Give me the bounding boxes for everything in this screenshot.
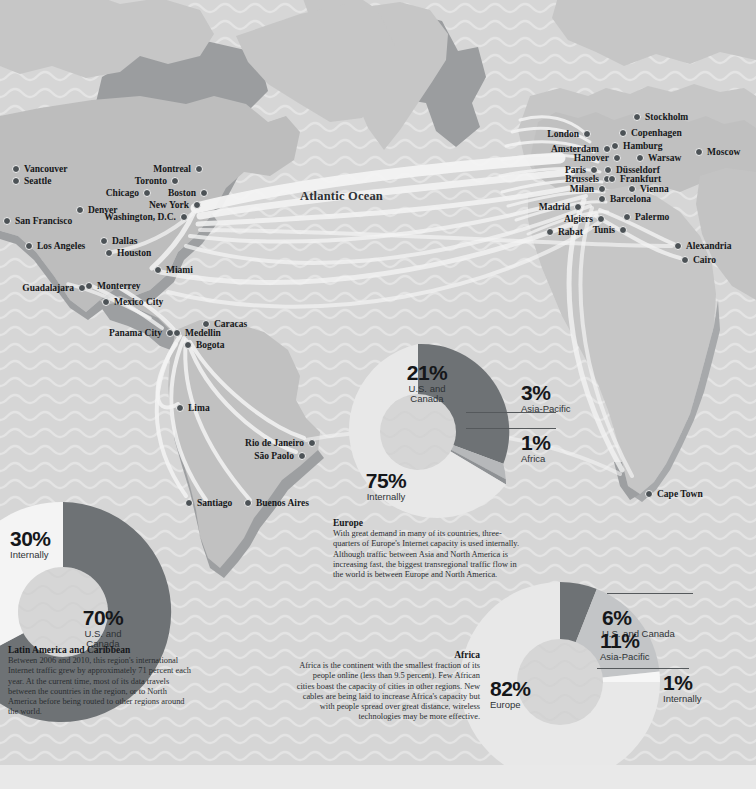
city-label: Frankfurt — [620, 174, 661, 184]
eu-label-africa: 1% Africa — [521, 432, 550, 464]
city-marker-moscow: Moscow — [695, 147, 740, 157]
city-marker-copenhagen: Copenhagen — [619, 128, 682, 138]
city-dot — [244, 499, 252, 507]
city-dot — [202, 320, 210, 328]
city-dot — [173, 329, 181, 337]
city-label: Milan — [570, 184, 594, 194]
city-marker-mexico-city: Mexico City — [102, 297, 163, 307]
city-marker-cairo: Cairo — [681, 255, 716, 265]
city-marker-algiers: Algiers — [0, 214, 605, 224]
city-marker-guadalajara: Guadalajara — [0, 283, 86, 293]
city-dot — [674, 242, 682, 250]
city-label: Rio de Janeiro — [245, 438, 304, 448]
city-label: Moscow — [707, 147, 740, 157]
city-label: London — [547, 129, 579, 139]
city-label: Miami — [166, 265, 193, 275]
city-dot — [102, 298, 110, 306]
city-label: Hamburg — [623, 141, 663, 151]
city-dot — [176, 404, 184, 412]
city-dot — [583, 130, 591, 138]
city-marker-santiago: Santiago — [185, 498, 232, 508]
city-dot — [184, 341, 192, 349]
city-marker-s-o-paolo: São Paolo — [0, 451, 306, 461]
city-marker-tunis: Tunis — [0, 225, 627, 235]
city-marker-rio-de-janeiro: Rio de Janeiro — [0, 438, 316, 448]
city-dot — [25, 242, 33, 250]
city-marker-hanover: Hanover — [0, 153, 621, 163]
africa-body: Africa is the continent with the smalles… — [294, 661, 480, 723]
city-dot — [598, 185, 606, 193]
city-label: São Paolo — [254, 451, 294, 461]
city-label: Rabat — [558, 227, 583, 237]
city-label: Lima — [188, 403, 210, 413]
city-dot — [598, 195, 606, 203]
city-dot — [308, 439, 316, 447]
city-dot — [628, 185, 636, 193]
city-marker-milan: Milan — [0, 184, 606, 194]
af-leader-line-us — [607, 593, 693, 594]
eu-leader-line-asia — [466, 412, 556, 413]
latin-america-text-block: Latin America and Caribbean Between 2006… — [8, 645, 194, 718]
city-label: Cape Town — [657, 489, 703, 499]
city-dot — [597, 215, 605, 223]
city-dot — [590, 166, 598, 174]
city-dot — [613, 154, 621, 162]
city-dot — [633, 113, 641, 121]
city-dot — [78, 284, 86, 292]
city-dot — [623, 213, 631, 221]
city-dot — [154, 266, 162, 274]
city-dot — [100, 237, 108, 245]
city-label: Santiago — [197, 498, 232, 508]
latin-america-body: Between 2006 and 2010, this region's int… — [8, 656, 194, 718]
city-label: Copenhagen — [631, 128, 682, 138]
city-dot — [574, 203, 582, 211]
city-marker-brussels: Brussels — [0, 174, 611, 184]
city-label: Tunis — [593, 225, 615, 235]
city-marker-miami: Miami — [154, 265, 193, 275]
city-marker-vienna: Vienna — [628, 184, 669, 194]
city-label: Hanover — [574, 153, 609, 163]
city-label: Stockholm — [645, 112, 688, 122]
city-label: Alexandria — [686, 241, 731, 251]
eu-leader-line-africa — [466, 428, 556, 429]
city-marker-dallas: Dallas — [100, 236, 137, 246]
city-dot — [298, 452, 306, 460]
city-marker-monterrey: Monterrey — [85, 281, 141, 291]
af-leader-line-internally — [597, 668, 689, 669]
city-label: Vienna — [640, 184, 669, 194]
city-marker-panama-city: Panama City — [0, 328, 174, 338]
city-label: Warsaw — [648, 153, 681, 163]
city-marker-lima: Lima — [176, 403, 210, 413]
city-marker-medellin: Medellin — [173, 328, 221, 338]
city-label: Dallas — [112, 236, 137, 246]
af-label-asia-pacific: 11% Asia-Pacific — [600, 630, 650, 662]
city-label: Guadalajara — [22, 283, 74, 293]
infographic-canvas: Atlantic Ocean VancouverSeattleMontrealT… — [0, 0, 756, 789]
city-marker-hamburg: Hamburg — [611, 141, 663, 151]
africa-heading: Africa — [294, 650, 480, 660]
city-label: Buenos Aires — [256, 498, 309, 508]
city-dot — [619, 129, 627, 137]
city-dot — [105, 249, 113, 257]
city-dot — [604, 166, 612, 174]
greenland — [236, 4, 396, 122]
city-marker-madrid: Madrid — [0, 202, 582, 212]
city-marker-houston: Houston — [105, 248, 151, 258]
city-label: Monterrey — [97, 281, 141, 291]
city-marker-london: London — [0, 129, 591, 139]
city-label: Cairo — [693, 255, 716, 265]
city-dot — [608, 175, 616, 183]
africa-text-block: Africa Africa is the continent with the … — [294, 650, 480, 723]
city-dot — [85, 282, 93, 290]
europe-heading: Europe — [333, 518, 525, 528]
eu-label-asia-pacific: 3% Asia-Pacific — [521, 382, 571, 414]
af-label-europe: 82% Europe — [490, 678, 531, 710]
city-label: Palermo — [635, 212, 669, 222]
city-marker-buenos-aires: Buenos Aires — [244, 498, 309, 508]
eu-label-us-canada: 21% U.S. andCanada — [390, 362, 464, 404]
city-label: Mexico City — [114, 297, 163, 307]
city-marker-alexandria: Alexandria — [674, 241, 731, 251]
la-label-us-canada: 70% U.S. andCanada — [60, 607, 146, 649]
city-label: Brussels — [565, 174, 599, 184]
city-label: Houston — [117, 248, 151, 258]
